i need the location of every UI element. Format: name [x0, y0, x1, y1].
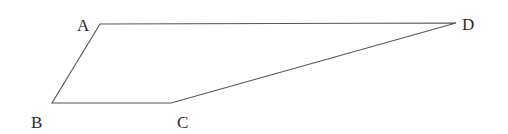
- vertex-label-c: C: [177, 114, 188, 131]
- quadrilateral-abcd: [52, 23, 456, 103]
- vertex-label-b: B: [31, 114, 42, 131]
- vertex-label-d: D: [462, 16, 474, 33]
- vertex-label-a: A: [77, 17, 89, 34]
- quadrilateral-diagram: A B C D: [0, 0, 508, 134]
